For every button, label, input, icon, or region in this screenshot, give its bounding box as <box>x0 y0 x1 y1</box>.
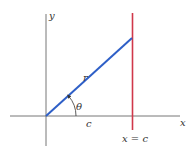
polar-diagram: y x r θ c x = c <box>0 0 193 159</box>
c-label: c <box>86 118 92 129</box>
segment-r <box>46 38 132 116</box>
x-equals-c-label: x = c <box>122 133 148 144</box>
theta-label: θ <box>76 101 82 112</box>
angle-arc <box>69 96 77 116</box>
x-axis-label: x <box>180 117 186 128</box>
y-axis-label: y <box>48 10 55 21</box>
